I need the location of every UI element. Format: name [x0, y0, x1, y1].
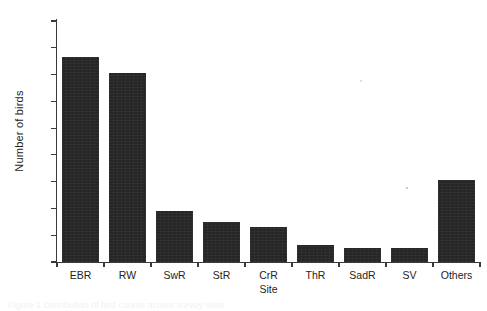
bar [250, 227, 288, 262]
scan-speck [406, 187, 408, 189]
x-tick-mark [197, 263, 198, 267]
x-tick-label: EBR [57, 269, 104, 281]
bar [344, 248, 382, 262]
bar [109, 73, 147, 262]
x-axis-title: Site [57, 283, 480, 295]
caption-ghost: Figure 1 Distribution of bird counts acr… [8, 300, 338, 310]
x-tick-label: RW [104, 269, 151, 281]
bar [297, 245, 335, 262]
x-tick-mark [338, 263, 339, 267]
x-tick-mark [56, 263, 57, 267]
x-tick-label: Others [433, 269, 480, 281]
bar [203, 222, 241, 262]
x-tick-mark [479, 263, 480, 267]
x-tick-mark [150, 263, 151, 267]
x-tick-label: SwR [151, 269, 198, 281]
bar-chart-figure: Number of birds 020040060080010001200140… [0, 0, 487, 311]
x-tick-mark [103, 263, 104, 267]
x-tick-mark [432, 263, 433, 267]
x-tick-mark [385, 263, 386, 267]
x-axis-line [56, 262, 481, 263]
y-axis-title: Number of birds [10, 0, 28, 262]
bar [391, 248, 429, 262]
x-tick-label: SadR [339, 269, 386, 281]
bar [438, 180, 476, 262]
scan-speck [360, 80, 362, 82]
x-tick-mark [244, 263, 245, 267]
x-tick-label: StR [198, 269, 245, 281]
plot-area [57, 21, 480, 262]
bar [156, 211, 194, 262]
x-tick-label: SV [386, 269, 433, 281]
x-tick-label: CrR [245, 269, 292, 281]
x-tick-label: ThR [292, 269, 339, 281]
bars-container [57, 21, 480, 262]
x-tick-mark [291, 263, 292, 267]
bar [62, 57, 100, 262]
